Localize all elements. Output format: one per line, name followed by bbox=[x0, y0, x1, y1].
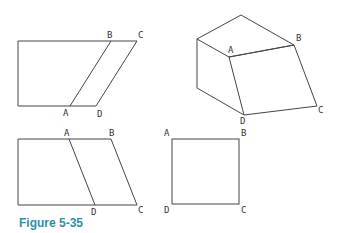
figure-top-right: A B C D bbox=[197, 15, 323, 126]
label-d: D bbox=[240, 116, 245, 126]
diagram: B C A D A B C D A B C D A B C D bbox=[0, 0, 343, 233]
label-d: D bbox=[91, 207, 96, 217]
figure-top-left: B C A D bbox=[18, 30, 143, 119]
figure-bottom-right: A B C D bbox=[164, 128, 246, 215]
label-c: C bbox=[318, 105, 323, 115]
label-a: A bbox=[228, 45, 234, 55]
label-b: B bbox=[107, 30, 112, 40]
label-b: B bbox=[241, 128, 246, 138]
label-d: D bbox=[97, 109, 102, 119]
label-b: B bbox=[109, 128, 114, 138]
label-c: C bbox=[138, 205, 143, 215]
label-d: D bbox=[164, 205, 169, 215]
label-a: A bbox=[64, 128, 70, 138]
label-a: A bbox=[63, 108, 69, 118]
figure-caption: Figure 5-35 bbox=[19, 216, 83, 230]
label-c: C bbox=[138, 30, 143, 40]
label-c: C bbox=[241, 205, 246, 215]
label-b: B bbox=[296, 33, 301, 43]
figure-canvas: B C A D A B C D A B C D A B C D Figure 5… bbox=[0, 0, 343, 233]
label-a: A bbox=[164, 128, 170, 138]
figure-bottom-left: A B C D bbox=[18, 128, 143, 217]
